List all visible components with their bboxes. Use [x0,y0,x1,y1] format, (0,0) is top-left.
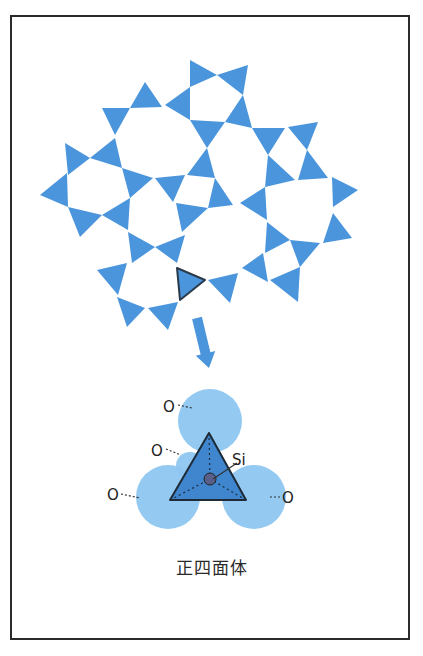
tetrahedron-unit [122,168,153,198]
tetrahedron-unit [240,187,267,220]
silicate-network [40,60,358,330]
tetrahedron-unit [176,203,208,232]
down-arrow-icon [192,317,215,368]
tetrahedron-unit [128,232,155,263]
tetrahedron-unit [298,150,328,180]
tetrahedron-unit [187,148,215,178]
arrow-shape [192,317,215,368]
tetrahedron-unit [265,222,290,253]
tetrahedron-unit [90,138,122,168]
tetrahedron-unit [208,178,233,208]
tetrahedron-unit [290,240,320,267]
tetrahedron-unit [40,173,68,207]
tetrahedron-unit [190,120,225,148]
tetrahedron-unit [102,108,130,135]
figure-caption: 正四面体 [0,554,423,579]
tetrahedron-unit [265,155,295,187]
silicon-atom [204,473,216,485]
tetrahedron-unit [148,302,178,330]
silicon-label: Si [232,451,246,469]
tetrahedron-unit [270,267,300,302]
tetrahedron-unit [225,95,252,128]
tetrahedron-unit [155,235,185,263]
tetrahedron-unit [68,207,102,237]
oxygen-label: O [282,489,294,507]
tetrahedron-unit [288,122,318,150]
tetrahedron-unit [332,177,358,207]
tetrahedron-unit [208,273,238,303]
tetrahedron-unit [130,82,162,108]
oxygen-label: O [151,442,163,460]
oxygen-label: O [107,486,119,504]
tetrahedron-unit [323,213,352,243]
tetrahedron-unit [165,87,190,120]
label-leader-line [166,449,181,455]
tetrahedron-unit [155,175,185,202]
tetrahedron-unit [242,253,268,282]
tetrahedron-unit [97,263,127,295]
tetrahedron-unit [190,60,217,87]
tetrahedron-unit [65,143,90,175]
tetrahedron-unit [217,65,248,95]
highlighted-tetrahedron [177,268,205,300]
tetrahedron-unit [102,198,130,230]
oxygen-label: O [163,398,175,416]
tetrahedron-illustration: OOOOSi [107,389,294,529]
tetrahedron-unit [252,128,285,155]
tetrahedron-unit [117,297,145,327]
